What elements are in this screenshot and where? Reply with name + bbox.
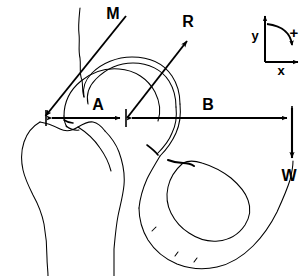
- pelvis-border-tick-1: [152, 227, 156, 231]
- label-b: B: [202, 96, 214, 113]
- pelvis-iliac-contour: [79, 8, 84, 97]
- hip-joint-diagram: M R A B W y x +: [0, 0, 307, 276]
- positive-rotation-arc: [267, 24, 292, 45]
- femur-lateral-cortex: [22, 122, 48, 276]
- ischium-superior-ramus: [139, 156, 160, 208]
- diagram-labels: M R A B W y x +: [92, 5, 298, 184]
- label-w: W: [281, 167, 297, 184]
- label-axis-x: x: [277, 63, 285, 78]
- diagram-canvas: M R A B W y x +: [0, 0, 307, 276]
- femoral-calcar: [78, 127, 111, 171]
- trabecular-detail-2: [147, 145, 158, 155]
- pelvis-inferior-contour: [139, 161, 293, 269]
- femur-medial-cortex: [105, 131, 124, 276]
- pelvis-border-tick-2: [175, 252, 178, 256]
- label-axis-y: y: [251, 28, 259, 43]
- obturator-foramen: [167, 161, 250, 241]
- pelvis-border-tick-3: [194, 258, 197, 262]
- label-m: M: [106, 5, 119, 22]
- dimension-lines: [46, 106, 292, 132]
- label-r: R: [182, 13, 194, 30]
- vector-m-arrow: [46, 16, 127, 116]
- label-a: A: [92, 96, 104, 113]
- vector-r-arrow: [127, 41, 187, 118]
- bone-outlines: [22, 8, 293, 276]
- label-positive-sign: +: [290, 24, 299, 41]
